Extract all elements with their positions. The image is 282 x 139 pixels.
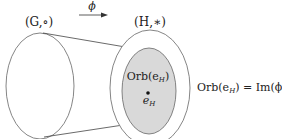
group-h-label: (H,∗) <box>134 15 166 29</box>
homomorphism-orbit-diagram: ϕ (G,∘) (H,∗) Orb(eH) eH Orb(eH) = Im(ϕ) <box>0 0 282 139</box>
group-g-label: (G,∘) <box>25 15 53 29</box>
group-g-ellipse <box>6 33 74 139</box>
orbit-image-equation: Orb(eH) = Im(ϕ) <box>197 81 282 95</box>
arrow-head-icon <box>101 13 108 18</box>
phi-label: ϕ <box>88 0 96 13</box>
orbit-ellipse <box>122 48 176 134</box>
